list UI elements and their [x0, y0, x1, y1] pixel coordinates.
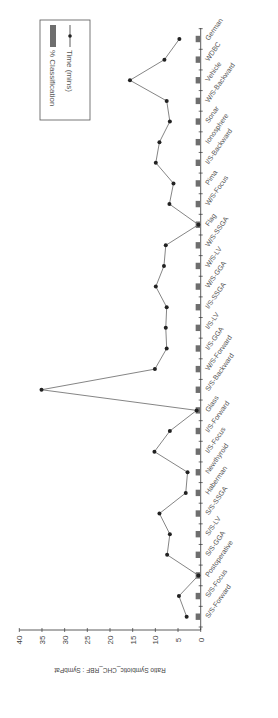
bar-classification	[196, 325, 201, 331]
bar-classification	[196, 160, 201, 166]
bar-classification	[196, 242, 201, 248]
value-tick-label: 35	[38, 635, 47, 644]
time-marker	[162, 58, 166, 62]
legend: % Classification Time (mins)	[40, 20, 90, 120]
legend-marker-icon	[68, 34, 72, 38]
time-marker	[157, 140, 161, 144]
time-marker	[128, 78, 132, 82]
time-line	[42, 39, 199, 617]
legend-bar-swatch-icon	[50, 25, 56, 47]
bar-classification	[196, 77, 201, 83]
value-tick-label: 10	[151, 635, 160, 644]
bar-classification	[196, 283, 201, 289]
bar-classification	[196, 448, 201, 454]
value-tick-label: 25	[83, 635, 92, 644]
time-marker	[184, 491, 188, 495]
time-marker	[196, 223, 200, 227]
legend-box	[40, 20, 90, 120]
bar-classification	[196, 531, 201, 537]
time-marker	[154, 161, 158, 165]
time-marker	[195, 408, 199, 412]
figure-caption-edge	[262, 560, 272, 710]
bar-classification	[196, 98, 201, 104]
bar-classification	[196, 387, 201, 393]
time-marker	[186, 470, 190, 474]
time-marker	[157, 512, 161, 516]
time-marker	[154, 285, 158, 289]
time-marker	[162, 264, 166, 268]
bar-classification	[196, 366, 201, 372]
bar-classification	[196, 490, 201, 496]
value-tick-label: 40	[15, 635, 24, 644]
category-label: WDBC	[204, 41, 222, 63]
value-tick-label: 30	[61, 635, 70, 644]
value-tick-label: 0	[197, 637, 206, 642]
time-marker	[185, 615, 189, 619]
bar-classification	[196, 139, 201, 145]
time-marker	[196, 573, 200, 577]
bar-classification	[196, 469, 201, 475]
time-marker	[165, 99, 169, 103]
legend-label-time: Time (mins)	[65, 50, 74, 92]
bar-classification	[196, 593, 201, 599]
bar-classification	[196, 201, 201, 207]
bar-classification	[196, 614, 201, 620]
y-axis-title: Ratio Symbiotic_CHC_RBF : SymbPat	[54, 666, 165, 674]
time-marker	[165, 553, 169, 557]
value-tick-label: 15	[129, 635, 138, 644]
bar-classification	[196, 552, 201, 558]
bar-classification	[196, 428, 201, 434]
value-tick-label: 20	[106, 635, 115, 644]
time-marker	[168, 532, 172, 536]
time-marker	[153, 367, 157, 371]
time-marker	[40, 388, 44, 392]
bar-classification	[196, 36, 201, 42]
bar-classification	[196, 304, 201, 310]
bar-classification	[196, 56, 201, 62]
time-marker	[165, 346, 169, 350]
time-marker	[168, 429, 172, 433]
time-marker	[164, 326, 168, 330]
time-marker	[171, 181, 175, 185]
time-marker	[177, 37, 181, 41]
bar-classification	[196, 180, 201, 186]
bar-classification	[196, 118, 201, 124]
bar-classification	[196, 510, 201, 516]
time-marker	[165, 305, 169, 309]
time-marker	[168, 120, 172, 124]
legend-label-classification: % Classification	[48, 50, 57, 106]
value-tick-label: 5	[174, 637, 183, 642]
chart: 0510152025303540S/S-ForwardS/S-FocusPost…	[0, 0, 278, 718]
time-marker	[177, 594, 181, 598]
time-marker	[152, 450, 156, 454]
time-marker	[164, 243, 168, 247]
time-marker	[167, 202, 171, 206]
bar-classification	[196, 345, 201, 351]
bar-classification	[196, 263, 201, 269]
category-label: German	[204, 17, 224, 42]
